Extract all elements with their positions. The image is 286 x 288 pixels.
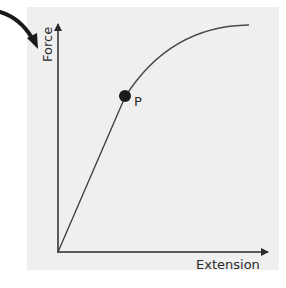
point-p-label: P: [134, 94, 142, 109]
linear-segment: [58, 97, 125, 252]
point-p-marker: [119, 90, 131, 102]
curved-segment: [125, 25, 249, 97]
x-axis-label: Extension: [196, 257, 260, 272]
y-axis-label: Force: [40, 27, 55, 62]
pointer-arrow-icon: [0, 12, 38, 49]
force-extension-graph: P Force Extension: [0, 0, 286, 288]
